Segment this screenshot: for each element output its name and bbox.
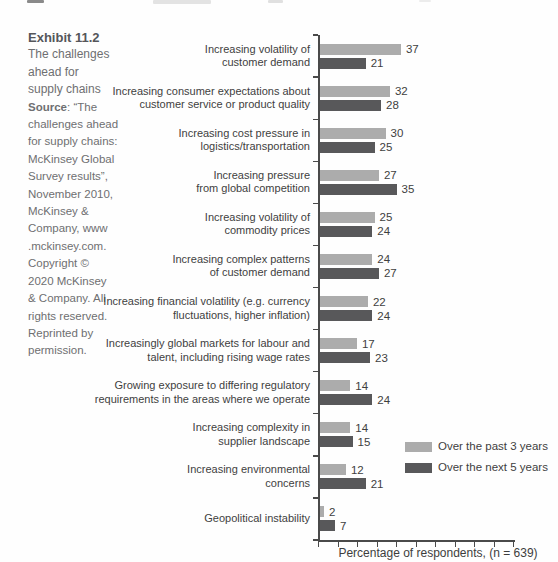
bar-past-3-years <box>320 506 324 517</box>
x-axis-tick <box>455 542 456 547</box>
category-label-line: logistics/transportation <box>60 140 310 153</box>
bar-value-label: 22 <box>373 295 386 308</box>
page-crop-artifact <box>268 0 283 3</box>
bar-next-5-years <box>320 226 373 237</box>
bar-value-label: 23 <box>375 351 388 364</box>
x-axis-label: Percentage of respondents, (n = 639) <box>325 546 551 560</box>
x-axis-tick <box>377 542 378 547</box>
legend-label: Over the next 5 years <box>438 461 548 473</box>
bar-next-5-years <box>320 394 373 405</box>
category-label-line: Increasing complex patterns <box>60 253 310 266</box>
category-label: Increasing complexity insupplier landsca… <box>60 414 310 456</box>
category-label: Increasingly global markets for labour a… <box>60 330 310 372</box>
category-label-line: Increasing volatility of <box>60 43 310 56</box>
bar-value-label: 14 <box>355 421 368 434</box>
bar-past-3-years <box>320 338 357 349</box>
category-label-line: Increasingly global markets for labour a… <box>60 337 310 350</box>
bar-past-3-years <box>320 86 390 97</box>
category-label: Increasing volatility ofcustomer demand <box>60 35 310 77</box>
x-axis-tick <box>494 542 495 547</box>
bar-next-5-years <box>320 184 397 195</box>
x-axis-tick <box>357 542 358 547</box>
y-axis-tick <box>313 329 318 330</box>
x-axis-tick <box>474 542 475 547</box>
legend-swatch-past-3-years <box>405 442 432 453</box>
bar-next-5-years <box>320 520 335 531</box>
bar-past-3-years <box>320 170 379 181</box>
category-label-line: customer service or product quality <box>60 98 310 111</box>
category-label-line: Increasing complexity in <box>60 421 310 434</box>
bar-past-3-years <box>320 44 401 55</box>
category-label-line: of customer demand <box>60 266 310 279</box>
bar-value-label: 24 <box>377 253 390 266</box>
y-axis-tick <box>313 203 318 204</box>
category-label-line: from global competition <box>60 182 310 195</box>
page-crop-artifact <box>419 0 431 2</box>
bar-next-5-years <box>320 436 353 447</box>
x-axis-tick <box>318 542 319 547</box>
bar-past-3-years <box>320 380 351 391</box>
y-axis-tick <box>313 119 318 120</box>
x-axis-tick <box>435 542 436 547</box>
category-label-line: Increasing financial volatility (e.g. cu… <box>60 295 310 308</box>
category-label-line: Increasing pressure <box>60 169 310 182</box>
category-label-line: Increasing consumer expectations about <box>60 85 310 98</box>
page-crop-artifact <box>27 0 44 3</box>
exhibit-figure: Exhibit 11.2 The challengesahead forsupp… <box>0 0 558 562</box>
y-axis-tick <box>313 161 318 162</box>
page-crop-artifact <box>153 0 211 4</box>
bar-next-5-years <box>320 100 382 111</box>
y-axis-tick <box>313 287 318 288</box>
bar-value-label: 35 <box>402 183 415 196</box>
bar-value-label: 12 <box>351 463 364 476</box>
category-label-line: talent, including rising wage rates <box>60 351 310 364</box>
bar-value-label: 32 <box>395 85 408 98</box>
bar-past-3-years <box>320 212 375 223</box>
y-axis-tick <box>313 413 318 414</box>
bar-value-label: 30 <box>391 127 404 140</box>
bar-value-label: 21 <box>371 57 384 70</box>
bar-value-label: 28 <box>386 99 399 112</box>
bar-next-5-years <box>320 142 375 153</box>
bar-next-5-years <box>320 478 366 489</box>
bar-past-3-years <box>320 128 386 139</box>
y-axis-tick <box>313 245 318 246</box>
category-label: Increasing pressurefrom global competiti… <box>60 161 310 203</box>
y-axis-tick <box>313 76 318 77</box>
category-label-line: Increasing environmental <box>60 463 310 476</box>
category-label: Growing exposure to differing regulatory… <box>60 372 310 414</box>
category-label-line: Increasing volatility of <box>60 211 310 224</box>
y-axis-tick <box>313 371 318 372</box>
bar-past-3-years <box>320 422 351 433</box>
category-label: Increasing environmentalconcerns <box>60 456 310 498</box>
x-axis-tick <box>416 542 417 547</box>
category-label: Increasing cost pressure inlogistics/tra… <box>60 119 310 161</box>
category-label: Geopolitical instability <box>60 498 310 540</box>
bar-past-3-years <box>320 254 373 265</box>
bar-value-label: 17 <box>362 337 375 350</box>
x-axis-tick <box>396 542 397 547</box>
bar-value-label: 37 <box>406 43 419 56</box>
category-label-line: fluctuations, higher inflation) <box>60 309 310 322</box>
bar-value-label: 15 <box>358 435 371 448</box>
bar-past-3-years <box>320 464 346 475</box>
category-label-line: Geopolitical instability <box>60 512 310 525</box>
bar-value-label: 24 <box>377 225 390 238</box>
category-label: Increasing financial volatility (e.g. cu… <box>60 288 310 330</box>
category-label: Increasing volatility ofcommodity prices <box>60 203 310 245</box>
legend-swatch-next-5-years <box>405 463 432 474</box>
category-label-line: supplier landscape <box>60 435 310 448</box>
legend-label: Over the past 3 years <box>438 440 548 452</box>
category-label-line: concerns <box>60 477 310 490</box>
bar-value-label: 25 <box>380 141 393 154</box>
bar-next-5-years <box>320 352 371 363</box>
bar-value-label: 7 <box>340 519 346 532</box>
bar-next-5-years <box>320 268 379 279</box>
bar-next-5-years <box>320 310 373 321</box>
category-label-line: Growing exposure to differing regulatory <box>60 379 310 392</box>
bar-value-label: 24 <box>377 393 390 406</box>
category-label-line: requirements in the areas where we opera… <box>60 393 310 406</box>
category-label-line: commodity prices <box>60 224 310 237</box>
bar-value-label: 2 <box>329 505 335 518</box>
y-axis-tick <box>313 455 318 456</box>
